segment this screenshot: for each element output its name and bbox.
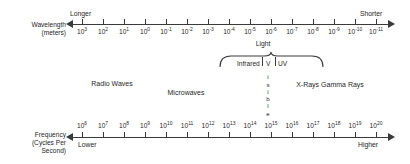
frequency-right-arrowhead xyxy=(388,133,395,141)
wavelength-tick xyxy=(229,19,230,24)
frequency-tick-label: 1018 xyxy=(328,122,341,129)
wavelength-tick-label: 10-6 xyxy=(265,28,277,35)
frequency-lower-word: Lower xyxy=(78,141,97,148)
band-name: Radio Waves xyxy=(91,80,132,87)
wavelength-tick-label: 10-7 xyxy=(286,28,298,35)
frequency-higher-word: Higher xyxy=(358,141,378,148)
wavelength-tick-label: 102 xyxy=(98,28,108,35)
wavelength-tick xyxy=(334,19,335,24)
wavelength-tick-label: 10-1 xyxy=(160,28,172,35)
frequency-tick-label: 1017 xyxy=(307,122,320,129)
visible-letter: s xyxy=(266,81,270,88)
light-segment-label: UV xyxy=(278,60,287,67)
wavelength-tick-label: 10-8 xyxy=(307,28,319,35)
wavelength-tick-label: 10-3 xyxy=(202,28,214,35)
wavelength-tick xyxy=(376,19,377,24)
visible-vertical-label: Visible xyxy=(266,66,270,117)
infrared-visible-divider xyxy=(262,57,263,66)
wavelength-tick-label: 10-2 xyxy=(181,28,193,35)
visible-uv-divider xyxy=(275,57,276,66)
band-name: Microwaves xyxy=(168,89,205,96)
wavelength-left-arrowhead xyxy=(66,20,73,28)
wavelength-tick xyxy=(271,19,272,24)
wavelength-axis-label-line1: Wavelength xyxy=(4,21,66,29)
frequency-tick-label: 1014 xyxy=(244,122,257,129)
wavelength-tick-label: 101 xyxy=(119,28,129,35)
visible-letter: i xyxy=(266,73,270,80)
light-segment-label: Infrared xyxy=(237,60,260,67)
frequency-axis-label-line1: Frequency xyxy=(4,131,66,139)
light-brace-icon xyxy=(219,52,325,68)
wavelength-tick-label: 10-9 xyxy=(328,28,340,35)
visible-letter: l xyxy=(266,102,270,109)
visible-letter: e xyxy=(266,110,270,117)
frequency-tick-label: 1011 xyxy=(181,122,193,129)
wavelength-axis-line xyxy=(73,24,388,25)
frequency-tick-label: 107 xyxy=(98,122,108,129)
wavelength-longer-word: Longer xyxy=(70,10,91,17)
frequency-axis-label-line2: (Cycles Per xyxy=(4,139,66,147)
wavelength-tick xyxy=(313,19,314,24)
visible-letter: i xyxy=(266,88,270,95)
wavelength-tick-label: 103 xyxy=(77,28,87,35)
band-name: X-Rays Gamma Rays xyxy=(296,81,364,88)
wavelength-tick xyxy=(250,19,251,24)
wavelength-tick xyxy=(187,19,188,24)
wavelength-tick xyxy=(355,19,356,24)
wavelength-tick-label: 10-10 xyxy=(348,28,362,35)
frequency-left-arrowhead xyxy=(66,133,73,141)
wavelength-tick-label: 100 xyxy=(140,28,150,35)
frequency-tick-label: 1015 xyxy=(265,122,278,129)
wavelength-tick xyxy=(124,19,125,24)
frequency-tick-label: 1016 xyxy=(286,122,299,129)
frequency-tick-label: 1019 xyxy=(349,122,362,129)
wavelength-tick xyxy=(292,19,293,24)
wavelength-tick-label: 10-4 xyxy=(223,28,235,35)
frequency-tick-label: 1020 xyxy=(370,122,383,129)
wavelength-axis-label-line2: (meters) xyxy=(4,29,66,37)
visible-letter: b xyxy=(266,95,270,102)
wavelength-shorter-word: Shorter xyxy=(360,10,382,17)
wavelength-tick xyxy=(145,19,146,24)
wavelength-tick xyxy=(166,19,167,24)
frequency-tick-label: 109 xyxy=(140,122,150,129)
frequency-axis-label: Frequency (Cycles Per Second) xyxy=(4,131,66,156)
frequency-axis-line xyxy=(73,137,388,138)
frequency-tick-label: 1012 xyxy=(202,122,215,129)
wavelength-axis-label: Wavelength (meters) xyxy=(4,21,66,37)
wavelength-tick xyxy=(82,19,83,24)
frequency-tick-label: 108 xyxy=(119,122,129,129)
light-title: Light xyxy=(256,40,271,47)
frequency-axis-label-line3: Second) xyxy=(4,147,66,155)
frequency-tick-label: 1013 xyxy=(223,122,236,129)
wavelength-tick xyxy=(103,19,104,24)
frequency-tick-label: 1010 xyxy=(160,122,173,129)
frequency-tick-label: 106 xyxy=(77,122,87,129)
wavelength-tick-label: 10-5 xyxy=(244,28,256,35)
wavelength-right-arrowhead xyxy=(388,20,395,28)
wavelength-tick-label: 10-11 xyxy=(369,28,383,35)
wavelength-tick xyxy=(208,19,209,24)
electromagnetic-spectrum-diagram: Wavelength (meters) Longer Shorter 10310… xyxy=(0,0,410,164)
